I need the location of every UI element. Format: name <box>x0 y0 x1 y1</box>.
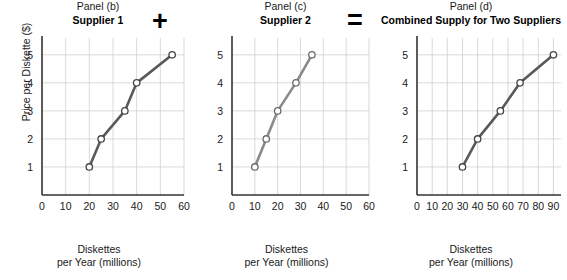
data-point-marker <box>293 80 299 86</box>
data-point-marker <box>550 52 556 58</box>
y-tick-label: 3 <box>217 105 223 117</box>
y-tick-label: 1 <box>402 161 408 173</box>
x-tick-label: 10 <box>426 200 438 212</box>
data-point-marker <box>133 80 139 86</box>
equals-operator-icon: = <box>347 7 363 34</box>
x-tick-label: 50 <box>154 200 166 212</box>
y-tick-label: 3 <box>402 105 408 117</box>
panel-c-chart-svg: 010203040506012345 <box>190 0 375 240</box>
x-tick-label: 60 <box>178 200 190 212</box>
x-tick-label: 90 <box>548 200 560 212</box>
panel-d: Panel (d) Combined Supply for Two Suppli… <box>375 0 567 280</box>
x-tick-label: 30 <box>457 200 469 212</box>
panel-c-plot: 010203040506012345 <box>190 0 375 280</box>
panel-b-plot: 010203040506012345 <box>0 0 190 280</box>
panel-c-x-axis-label-line2: per Year (millions) <box>198 256 375 269</box>
panel-b-x-axis-label: Diskettes per Year (millions) <box>0 243 190 269</box>
x-tick-label: 10 <box>249 200 261 212</box>
panel-d-plot: 010203040506070809012345 <box>375 0 567 280</box>
data-point-marker <box>169 52 175 58</box>
x-tick-label: 0 <box>229 200 235 212</box>
data-point-marker <box>98 136 104 142</box>
panel-d-chart-svg: 010203040506070809012345 <box>375 0 567 240</box>
data-point-marker <box>86 164 92 170</box>
y-tick-label: 4 <box>27 77 33 89</box>
data-point-marker <box>459 164 465 170</box>
y-tick-label: 4 <box>402 77 408 89</box>
x-tick-label: 80 <box>532 200 544 212</box>
panel-d-x-axis-label-line1: Diskettes <box>375 243 567 256</box>
y-tick-label: 4 <box>217 77 223 89</box>
x-tick-label: 0 <box>39 200 45 212</box>
x-tick-label: 20 <box>272 200 284 212</box>
x-tick-label: 30 <box>295 200 307 212</box>
x-tick-label: 0 <box>414 200 420 212</box>
y-tick-label: 1 <box>217 161 223 173</box>
panel-b-chart-svg: 010203040506012345 <box>0 0 190 240</box>
panel-c-x-axis-label: Diskettes per Year (millions) <box>190 243 375 269</box>
y-tick-label: 2 <box>217 133 223 145</box>
data-point-marker <box>309 52 315 58</box>
x-tick-label: 40 <box>317 200 329 212</box>
data-point-marker <box>274 108 280 114</box>
x-tick-label: 60 <box>502 200 514 212</box>
panel-c: Panel (c) Supplier 2 010203040506012345 … <box>190 0 375 280</box>
gridlines <box>232 38 369 195</box>
x-tick-label: 50 <box>340 200 352 212</box>
data-point-marker <box>517 80 523 86</box>
x-tick-label: 20 <box>83 200 95 212</box>
y-tick-label: 5 <box>217 49 223 61</box>
data-point-marker <box>497 108 503 114</box>
y-tick-label: 2 <box>27 133 33 145</box>
panel-d-x-axis-label: Diskettes per Year (millions) <box>375 243 567 269</box>
panel-b-x-axis-label-line2: per Year (millions) <box>8 256 190 269</box>
x-tick-label: 50 <box>487 200 499 212</box>
x-tick-label: 30 <box>107 200 119 212</box>
plus-operator-icon: + <box>152 8 168 35</box>
x-tick-label: 20 <box>441 200 453 212</box>
panel-d-x-axis-label-line2: per Year (millions) <box>375 256 567 269</box>
gridlines <box>417 38 561 195</box>
data-point-marker <box>252 164 258 170</box>
x-tick-label: 40 <box>472 200 484 212</box>
y-tick-label: 1 <box>27 161 33 173</box>
x-tick-label: 40 <box>131 200 143 212</box>
data-point-marker <box>474 136 480 142</box>
x-tick-label: 60 <box>363 200 375 212</box>
y-tick-label: 5 <box>27 49 33 61</box>
data-point-marker <box>122 108 128 114</box>
x-tick-label: 70 <box>517 200 529 212</box>
supply-curve-figure: Panel (b) Supplier 1 Price per Diskette … <box>0 0 567 280</box>
y-tick-label: 3 <box>27 105 33 117</box>
data-point-marker <box>263 136 269 142</box>
x-tick-label: 10 <box>60 200 72 212</box>
panel-c-x-axis-label-line1: Diskettes <box>198 243 375 256</box>
panel-b-x-axis-label-line1: Diskettes <box>8 243 190 256</box>
y-tick-label: 5 <box>402 49 408 61</box>
panel-b: Panel (b) Supplier 1 Price per Diskette … <box>0 0 190 280</box>
y-tick-label: 2 <box>402 133 408 145</box>
